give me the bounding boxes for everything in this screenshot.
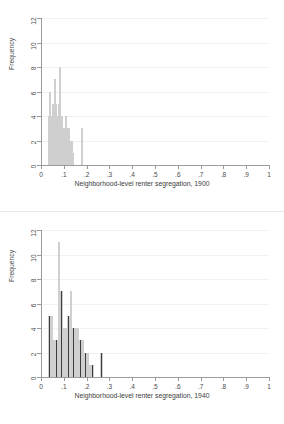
x-tick bbox=[223, 165, 224, 169]
histogram-bar bbox=[72, 153, 74, 165]
x-tick bbox=[269, 377, 270, 381]
y-tick bbox=[37, 328, 41, 329]
histogram-bar bbox=[100, 353, 102, 378]
x-tick bbox=[201, 377, 202, 381]
x-tick-label: .5 bbox=[145, 171, 165, 178]
x-tick-label: .9 bbox=[236, 171, 256, 178]
x-axis-title-1900: Neighborhood-level renter segregation, 1… bbox=[0, 180, 284, 187]
x-tick-label: .9 bbox=[236, 383, 256, 390]
x-tick bbox=[64, 377, 65, 381]
x-tick-label: .3 bbox=[99, 383, 119, 390]
x-tick bbox=[155, 165, 156, 169]
y-tick-label: 10 bbox=[30, 254, 37, 268]
x-tick-label: .6 bbox=[168, 171, 188, 178]
y-tick-label: 10 bbox=[30, 42, 37, 56]
y-tick bbox=[37, 141, 41, 142]
histogram-panel-1900: 0246810120.1.2.3.4.5.6.7.8.91 Frequency … bbox=[0, 0, 284, 212]
histogram-bar bbox=[81, 128, 83, 165]
x-tick bbox=[109, 377, 110, 381]
x-tick bbox=[87, 377, 88, 381]
x-tick-label: .1 bbox=[54, 171, 74, 178]
x-tick-label: .3 bbox=[99, 171, 119, 178]
x-tick bbox=[201, 165, 202, 169]
y-tick bbox=[37, 304, 41, 305]
figure-page: 0246810120.1.2.3.4.5.6.7.8.91 Frequency … bbox=[0, 0, 284, 424]
x-tick bbox=[155, 377, 156, 381]
plot-wrap-1900: 0246810120.1.2.3.4.5.6.7.8.91 Frequency … bbox=[0, 0, 284, 212]
x-tick-label: .7 bbox=[191, 383, 211, 390]
histogram-bar bbox=[91, 365, 93, 377]
y-tick bbox=[37, 18, 41, 19]
x-tick bbox=[269, 165, 270, 169]
x-tick-label: 1 bbox=[259, 383, 279, 390]
x-tick bbox=[109, 165, 110, 169]
x-tick-label: 0 bbox=[31, 383, 51, 390]
y-tick-label: 4 bbox=[30, 116, 37, 130]
x-tick-label: .8 bbox=[213, 171, 233, 178]
x-tick-label: .2 bbox=[77, 383, 97, 390]
y-axis-line-1900 bbox=[41, 18, 42, 165]
bars-layer-1900 bbox=[41, 18, 269, 165]
y-tick-label: 2 bbox=[30, 352, 37, 366]
y-tick bbox=[37, 230, 41, 231]
y-tick bbox=[37, 67, 41, 68]
x-tick bbox=[132, 165, 133, 169]
x-tick bbox=[246, 377, 247, 381]
x-tick bbox=[87, 165, 88, 169]
x-tick bbox=[41, 377, 42, 381]
x-tick bbox=[41, 165, 42, 169]
x-tick bbox=[246, 165, 247, 169]
x-tick-label: 1 bbox=[259, 171, 279, 178]
x-tick-label: .5 bbox=[145, 383, 165, 390]
x-tick-label: 0 bbox=[31, 171, 51, 178]
y-tick-label: 2 bbox=[30, 140, 37, 154]
x-tick bbox=[223, 377, 224, 381]
x-tick bbox=[178, 165, 179, 169]
x-axis-title-1940: Neighborhood-level renter segregation, 1… bbox=[0, 392, 284, 399]
x-tick-label: .2 bbox=[77, 171, 97, 178]
y-tick bbox=[37, 92, 41, 93]
y-tick bbox=[37, 43, 41, 44]
y-axis-title-1940: Frequency bbox=[8, 250, 15, 282]
plot-wrap-1940: 0246810120.1.2.3.4.5.6.7.8.91 Frequency … bbox=[0, 212, 284, 424]
y-tick-label: 12 bbox=[30, 230, 37, 244]
y-tick-label: 6 bbox=[30, 91, 37, 105]
x-tick-label: .1 bbox=[54, 383, 74, 390]
x-tick bbox=[178, 377, 179, 381]
y-tick bbox=[37, 116, 41, 117]
histogram-panel-1940: 0246810120.1.2.3.4.5.6.7.8.91 Frequency … bbox=[0, 212, 284, 424]
x-tick-label: .4 bbox=[122, 171, 142, 178]
y-tick-label: 12 bbox=[30, 18, 37, 32]
x-tick-label: .8 bbox=[213, 383, 233, 390]
x-tick bbox=[132, 377, 133, 381]
x-tick-label: .6 bbox=[168, 383, 188, 390]
bars-layer-1940 bbox=[41, 230, 269, 377]
y-tick bbox=[37, 353, 41, 354]
y-tick-label: 4 bbox=[30, 328, 37, 342]
x-tick-label: .4 bbox=[122, 383, 142, 390]
y-tick-label: 8 bbox=[30, 67, 37, 81]
y-axis-title-1900: Frequency bbox=[8, 38, 15, 70]
y-tick-label: 6 bbox=[30, 303, 37, 317]
x-tick-label: .7 bbox=[191, 171, 211, 178]
x-tick bbox=[64, 165, 65, 169]
y-tick bbox=[37, 279, 41, 280]
y-axis-line-1940 bbox=[41, 230, 42, 377]
y-tick bbox=[37, 255, 41, 256]
y-tick-label: 8 bbox=[30, 279, 37, 293]
